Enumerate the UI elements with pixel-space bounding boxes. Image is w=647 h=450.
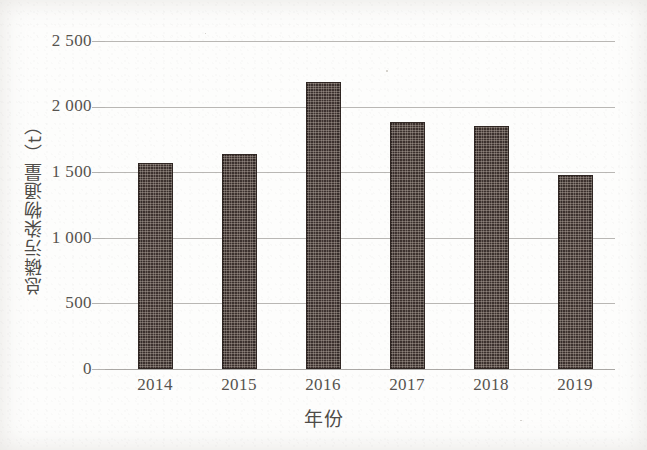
tick-mark [92,172,105,173]
bar-2016[interactable] [306,82,341,369]
gridline-500 [105,303,615,304]
gridline-1000 [105,238,615,239]
y-tick-label: 1 500 [52,162,92,182]
x-tick-label-2017: 2017 [372,375,442,395]
bar-2014[interactable] [138,163,173,369]
bar-chart-figure: 总磷污染物通量（t） 2 500 2 000 1 500 1 000 500 0… [0,0,647,450]
tick-mark [92,238,105,239]
bar-2015[interactable] [222,154,257,369]
tick-mark [92,107,105,108]
x-tick-label-2014: 2014 [120,375,190,395]
tick-mark [92,41,105,42]
y-tick-label: 2 500 [52,31,92,51]
bar-2017[interactable] [390,122,425,369]
gridline-1500 [105,172,615,173]
y-axis-tick-labels: 2 500 2 000 1 500 1 000 500 0 [0,0,92,450]
plot-area [105,41,615,369]
tick-mark [92,303,105,304]
gridline-2500 [105,41,615,42]
scan-speck [205,33,206,34]
y-tick-label: 2 000 [52,96,92,116]
x-tick-label-2016: 2016 [288,375,358,395]
x-tick-label-2018: 2018 [456,375,526,395]
bar-2018[interactable] [474,126,509,369]
tick-mark [92,369,105,370]
scan-speck [386,70,388,72]
y-tick-label: 1 000 [52,228,92,248]
scan-speck [520,420,522,421]
bar-2019[interactable] [558,175,593,369]
gridline-2000 [105,107,615,108]
x-axis-title: 年份 [0,404,647,431]
gridline-baseline-0 [105,369,615,370]
x-tick-label-2015: 2015 [204,375,274,395]
y-tick-label: 500 [65,293,92,313]
y-tick-label: 0 [83,359,92,379]
x-tick-label-2019: 2019 [540,375,610,395]
